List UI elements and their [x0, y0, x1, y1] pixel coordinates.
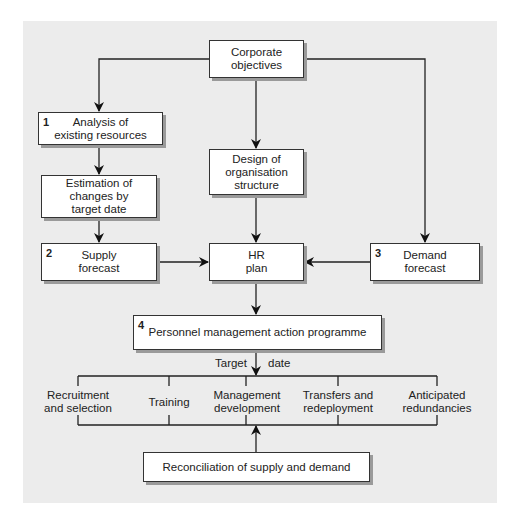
step-number: 3 — [375, 247, 381, 260]
branch-management-development: Management development — [206, 389, 288, 415]
demand-forecast-label: Demand forecast — [403, 249, 446, 275]
date-label: date — [268, 357, 290, 370]
step-number: 1 — [43, 116, 49, 129]
branch-redundancies: Anticipated redundancies — [394, 389, 480, 415]
analysis-box: 1Analysis of existing resources — [38, 112, 163, 145]
step-number: 2 — [46, 247, 52, 260]
supply-forecast-label: Supply forecast — [79, 249, 120, 275]
corporate-objectives-label: Corporate objectives — [231, 46, 282, 72]
estimation-box: Estimation of changes by target date — [41, 175, 157, 218]
reconciliation-box: Reconciliation of supply and demand — [143, 452, 370, 482]
demand-forecast-box: 3Demand forecast — [370, 243, 480, 281]
personnel-programme-box: 4Personnel management action programme — [133, 315, 382, 350]
design-box: Design of organisation structure — [209, 149, 304, 195]
personnel-programme-label: Personnel management action programme — [149, 326, 367, 339]
analysis-label: Analysis of existing resources — [54, 116, 147, 142]
hr-plan-box: HR plan — [209, 243, 304, 281]
target-label: Target — [215, 357, 247, 370]
branch-transfers: Transfers and redeployment — [294, 389, 382, 415]
design-label: Design of organisation structure — [225, 153, 288, 192]
estimation-label: Estimation of changes by target date — [66, 177, 132, 216]
branch-recruitment: Recruitment and selection — [40, 389, 116, 415]
corporate-objectives-box: Corporate objectives — [209, 40, 304, 78]
step-number: 4 — [138, 319, 144, 332]
reconciliation-label: Reconciliation of supply and demand — [163, 461, 351, 474]
supply-forecast-box: 2Supply forecast — [41, 243, 157, 281]
hr-plan-label: HR plan — [246, 249, 268, 275]
branch-training: Training — [140, 396, 198, 409]
